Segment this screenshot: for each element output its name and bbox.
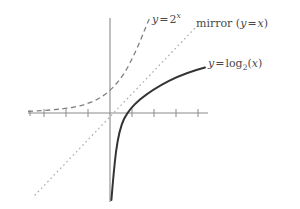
mirror-close-paren: ) <box>264 17 268 30</box>
logarithm-curve <box>111 68 205 201</box>
exp-exponent: x <box>176 11 180 20</box>
annotation-exponential: y=2x <box>152 14 181 25</box>
mirror-equals: = <box>246 17 257 30</box>
log-close-paren: ) <box>258 57 262 70</box>
log-equals: = <box>214 57 225 70</box>
exp-equals: = <box>158 13 169 26</box>
log-func: log <box>225 57 242 70</box>
plot-canvas <box>0 0 300 209</box>
exponential-curve <box>28 17 150 111</box>
math-plot-figure: y=2x mirror (y=x) y=log2(x) <box>0 0 300 209</box>
annotation-logarithm: y=log2(x) <box>208 58 262 69</box>
annotation-mirror: mirror (y=x) <box>196 18 268 29</box>
mirror-line-y-equals-x <box>35 27 196 195</box>
mirror-word: mirror <box>196 17 232 30</box>
